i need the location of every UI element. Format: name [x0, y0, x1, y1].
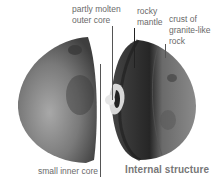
outer-core-label-line2: outer core	[72, 15, 121, 26]
outer-core-leader-line	[112, 26, 113, 100]
mantle-label: rocky mantle	[137, 6, 163, 28]
mantle-leader-line	[134, 28, 135, 68]
mantle-label-line2: mantle	[137, 17, 163, 28]
crust-label: crust of granite-like rock	[169, 14, 211, 47]
crust-label-line2: granite-like	[169, 25, 211, 36]
crust-label-line1: crust of	[169, 14, 211, 25]
inner-core-leader-line	[100, 64, 101, 177]
crust-label-line3: rock	[169, 36, 211, 47]
crust-leader-line	[165, 44, 166, 58]
right-hemisphere	[112, 40, 196, 160]
left-hemisphere	[18, 37, 97, 163]
outer-core-label: partly molten outer core	[72, 4, 121, 26]
outer-core-label-line1: partly molten	[72, 4, 121, 15]
mantle-label-line1: rocky	[137, 6, 163, 17]
inner-core-label: small inner core	[38, 166, 98, 177]
diagram-title: Internal structure	[125, 164, 209, 175]
